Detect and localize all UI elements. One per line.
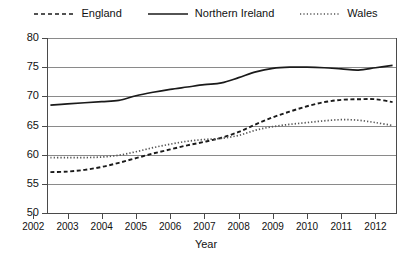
series-layer [0,0,412,257]
series-line-northern-ireland [50,65,392,105]
series-line-wales [50,120,392,158]
plot-area: 8075706560555020022003200420052006200720… [0,0,412,257]
line-chart: England Northern Ireland Wales 807570656… [0,0,412,257]
series-line-england [50,99,392,172]
x-axis-title: Year [0,239,412,250]
